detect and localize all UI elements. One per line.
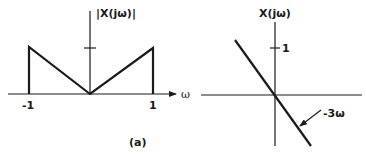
figure-canvas: |X(jω)| -1 1 ω (a) 1 X(jω) -3ω [0, 0, 366, 157]
phase-plot: 1 X(jω) -3ω [201, 7, 362, 146]
x-tick-neg1: -1 [22, 99, 34, 112]
annotation-arrow-icon [300, 110, 321, 126]
magnitude-title: |X(jω)| [96, 7, 136, 20]
x-tick-1: 1 [149, 99, 157, 112]
phase-y-tick-label: 1 [282, 42, 290, 55]
magnitude-plot: |X(jω)| -1 1 ω (a) [8, 7, 190, 149]
magnitude-curve [29, 47, 153, 94]
figure-label: (a) [129, 136, 146, 149]
phase-title: X(jω) [259, 7, 291, 20]
x-axis-omega-label: ω [181, 88, 190, 101]
slope-annotation: -3ω [323, 107, 345, 120]
phase-line [235, 40, 311, 146]
